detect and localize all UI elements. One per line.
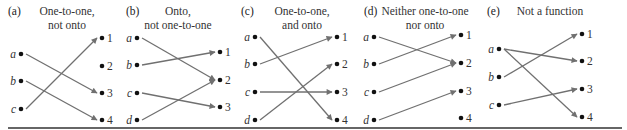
domain-dot-b (372, 62, 377, 67)
domain-element-label: a (488, 43, 494, 55)
domain-element-label: b (244, 58, 250, 70)
panel-label: (b) (126, 5, 140, 18)
codomain-element-label: 2 (225, 74, 231, 86)
codomain-dot-2 (459, 61, 464, 66)
codomain-dot-4 (335, 118, 340, 123)
domain-dot-a (253, 35, 258, 40)
panel-title-line: not onto (48, 19, 86, 31)
codomain-element-label: 3 (225, 101, 231, 113)
codomain-dot-1 (100, 36, 105, 41)
domain-element-label: d (363, 114, 369, 126)
domain-dot-a (135, 36, 140, 41)
codomain-dot-3 (218, 105, 223, 110)
domain-element-label: c (245, 86, 250, 98)
domain-dot-c (497, 103, 502, 108)
codomain-element-label: 3 (466, 85, 472, 97)
codomain-element-label: 4 (107, 114, 113, 126)
domain-element-label: a (10, 48, 16, 60)
domain-dot-b (19, 79, 24, 84)
codomain-dot-3 (580, 87, 585, 92)
panel-title-line: One-to-one, (274, 5, 329, 18)
codomain-element-label: 1 (225, 46, 231, 58)
domain-element-label: b (10, 75, 16, 87)
domain-dot-a (372, 35, 377, 40)
mapping-arrow-d-to-3 (379, 91, 456, 120)
domain-dot-c (135, 91, 140, 96)
codomain-dot-1 (218, 50, 223, 55)
panel-e: (e)Not a functionabc1234 (487, 5, 593, 123)
codomain-dot-4 (100, 118, 105, 123)
domain-dot-b (135, 63, 140, 68)
domain-element-label: b (363, 58, 369, 70)
codomain-element-label: 1 (342, 31, 348, 43)
codomain-dot-2 (218, 78, 223, 83)
domain-element-label: b (488, 71, 494, 83)
domain-element-label: a (363, 31, 369, 43)
domain-dot-c (19, 107, 24, 112)
codomain-element-label: 3 (587, 83, 593, 95)
mapping-arrow-d-to-2 (142, 80, 215, 120)
panel-label: (a) (8, 5, 21, 18)
function-mapping-figure: (a)One-to-one,not ontoabc1234(b)Onto,not… (0, 0, 627, 130)
panel-label: (e) (487, 5, 500, 18)
codomain-dot-1 (335, 35, 340, 40)
codomain-dot-3 (100, 91, 105, 96)
mapping-arrow-c-to-2 (379, 63, 456, 92)
codomain-element-label: 2 (342, 58, 348, 70)
domain-dot-a (19, 52, 24, 57)
mapping-arrow-b-to-1 (504, 34, 577, 77)
codomain-element-label: 4 (466, 112, 472, 124)
domain-element-label: d (126, 114, 132, 126)
domain-dot-a (497, 47, 502, 52)
codomain-element-label: 1 (466, 29, 472, 41)
codomain-element-label: 1 (587, 28, 593, 40)
panels-group: (a)One-to-one,not ontoabc1234(b)Onto,not… (8, 5, 593, 126)
codomain-element-label: 2 (587, 55, 593, 67)
panel-title-line: Neither one-to-one (381, 5, 468, 17)
domain-dot-b (497, 75, 502, 80)
mapping-arrow-c-to-1 (26, 38, 97, 109)
domain-element-label: d (244, 114, 250, 126)
mapping-arrow-b-to-1 (142, 52, 215, 65)
domain-dot-d (372, 118, 377, 123)
domain-element-label: b (126, 59, 132, 71)
domain-element-label: a (126, 32, 132, 44)
panel-title-line: nor onto (406, 19, 445, 31)
domain-dot-d (135, 118, 140, 123)
domain-dot-b (253, 62, 258, 67)
codomain-element-label: 4 (342, 114, 348, 126)
panel-title-line: Not a function (517, 5, 584, 17)
codomain-dot-1 (459, 33, 464, 38)
domain-dot-d (253, 118, 258, 123)
panel-label: (d) (364, 5, 378, 18)
domain-element-label: c (489, 99, 494, 111)
panel-title-line: One-to-one, (39, 5, 94, 18)
panel-a: (a)One-to-one,not ontoabc1234 (8, 5, 113, 126)
codomain-element-label: 1 (107, 32, 113, 44)
panel-label: (c) (241, 5, 254, 18)
domain-element-label: c (364, 86, 369, 98)
codomain-element-label: 2 (466, 57, 472, 69)
mapping-arrow-c-to-3 (504, 89, 577, 105)
codomain-element-label: 3 (107, 87, 113, 99)
codomain-element-label: 2 (107, 60, 113, 72)
domain-element-label: c (11, 103, 16, 115)
domain-dot-c (253, 90, 258, 95)
panel-c: (c)One-to-one,and ontoabcd1234 (241, 5, 348, 126)
mapping-arrow-b-to-1 (260, 37, 332, 64)
codomain-element-label: 3 (342, 86, 348, 98)
panel-title-line: Onto, (165, 5, 191, 18)
panel-b: (b)Onto,not one-to-oneabcd123 (126, 5, 231, 126)
panel-d: (d)Neither one-to-onenor ontoabcd1234 (363, 5, 472, 126)
codomain-dot-3 (335, 90, 340, 95)
codomain-dot-2 (580, 59, 585, 64)
domain-element-label: a (244, 31, 250, 43)
codomain-dot-4 (580, 115, 585, 120)
mapping-arrow-a-to-4 (260, 37, 332, 120)
domain-dot-c (372, 90, 377, 95)
codomain-dot-4 (459, 116, 464, 121)
codomain-dot-1 (580, 32, 585, 37)
codomain-element-label: 4 (587, 111, 593, 123)
codomain-dot-2 (100, 64, 105, 69)
panel-title-line: not one-to-one (144, 19, 211, 31)
